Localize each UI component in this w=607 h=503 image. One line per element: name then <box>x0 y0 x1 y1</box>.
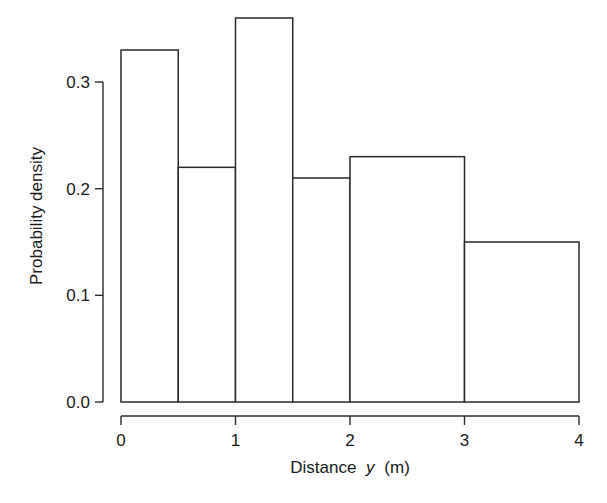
y-tick-label: 0.3 <box>66 73 90 92</box>
x-tick-label: 0 <box>116 431 125 450</box>
x-tick-label: 1 <box>231 431 240 450</box>
x-axis-label-name: Distance <box>290 458 356 477</box>
x-tick-label: 3 <box>460 431 469 450</box>
y-tick-label: 0.2 <box>66 180 90 199</box>
histogram-bar <box>236 18 293 402</box>
histogram-bars <box>121 18 579 402</box>
x-axis: 01234 <box>116 416 583 450</box>
y-tick-label: 0.1 <box>66 286 90 305</box>
histogram-chart: 0.00.10.20.3 01234 Probability density D… <box>0 0 607 503</box>
y-axis: 0.00.10.20.3 <box>66 73 103 412</box>
histogram-bar <box>350 157 465 402</box>
x-tick-label: 4 <box>574 431 583 450</box>
histogram-bar <box>121 50 178 402</box>
x-tick-label: 2 <box>345 431 354 450</box>
histogram-bar <box>465 242 580 402</box>
x-axis-label-unit: (m) <box>384 458 409 477</box>
x-axis-label: Distance y (m) <box>290 458 410 477</box>
y-tick-label: 0.0 <box>66 393 90 412</box>
x-axis-label-variable: y <box>365 458 376 477</box>
histogram-bar <box>293 178 350 402</box>
y-axis-label: Probability density <box>27 147 46 285</box>
histogram-bar <box>178 167 235 402</box>
